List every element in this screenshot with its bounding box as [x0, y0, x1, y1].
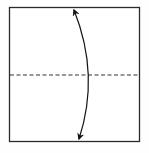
diagram-canvas: [0, 0, 149, 153]
origami-diagram: origami-fold-step: [0, 0, 149, 153]
paper-square: [10, 8, 140, 142]
